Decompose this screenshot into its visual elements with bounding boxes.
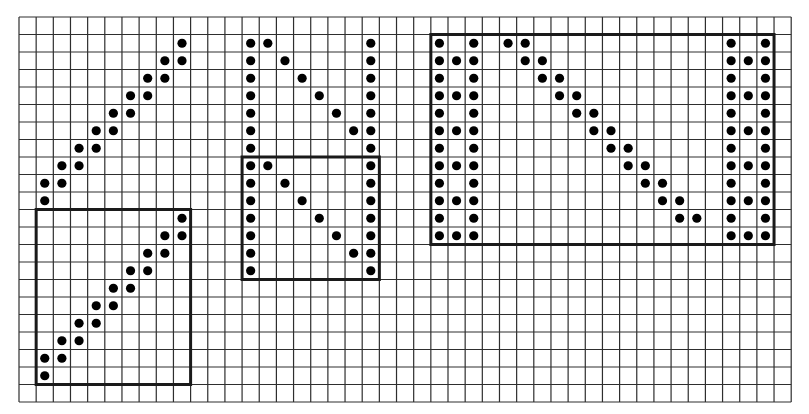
n-figure-boxed-dot (246, 214, 255, 223)
diagonal-figure-boxed-dot (160, 231, 169, 240)
wide-n-figure-boxed-dot (555, 91, 564, 100)
n-figure-top-dot (263, 39, 272, 48)
wide-n-figure-boxed-dot (469, 161, 478, 170)
wide-n-figure-boxed-dot (521, 39, 530, 48)
n-figure-top-dot (366, 74, 375, 83)
diagonal-figure-top-dot (57, 161, 66, 170)
diagonal-figure-top-dot (177, 39, 186, 48)
diagonal-figure-boxed-dot (177, 214, 186, 223)
wide-n-figure-boxed-dot (761, 179, 770, 188)
wide-n-figure-boxed-dot (761, 109, 770, 118)
n-figure-top-dot (366, 39, 375, 48)
diagonal-figure-top-dot (126, 109, 135, 118)
diagonal-figure-top-dot (57, 179, 66, 188)
wide-n-figure-boxed-dot (452, 126, 461, 135)
wide-n-figure-boxed-dot (469, 144, 478, 153)
diagonal-figure-boxed-dot (92, 319, 101, 328)
wide-n-figure-boxed-dot (727, 74, 736, 83)
n-figure-boxed-dot (366, 179, 375, 188)
wide-n-figure-boxed-dot (435, 126, 444, 135)
diagonal-figure-boxed-dot (126, 284, 135, 293)
wide-n-figure-boxed-dot (538, 56, 547, 65)
wide-n-figure-boxed-dot (435, 39, 444, 48)
wide-n-figure-boxed-dot (435, 196, 444, 205)
wide-n-figure-boxed-dot (641, 179, 650, 188)
n-figure-top-dot (246, 109, 255, 118)
wide-n-figure-boxed-dot (727, 144, 736, 153)
wide-n-figure-boxed-dot (727, 109, 736, 118)
diagonal-figure-top-dot (143, 91, 152, 100)
wide-n-figure-boxed-dot (452, 231, 461, 240)
wide-n-figure-boxed-dot (435, 74, 444, 83)
wide-n-figure-boxed-dot (435, 161, 444, 170)
n-figure-boxed-dot (246, 196, 255, 205)
diagonal-figure-top-dot (109, 126, 118, 135)
diagonal-figure-boxed-dot (40, 354, 49, 363)
wide-n-figure-boxed-dot (589, 109, 598, 118)
wide-n-figure-boxed-dot (761, 144, 770, 153)
diagonal-figure-top-dot (40, 179, 49, 188)
wide-n-figure-boxed-dot (761, 196, 770, 205)
n-figure-boxed-dot (246, 231, 255, 240)
n-figure-boxed-dot (366, 249, 375, 258)
wide-n-figure-boxed-dot (761, 56, 770, 65)
wide-n-figure-boxed-dot (606, 126, 615, 135)
wide-n-figure-boxed-dot (727, 39, 736, 48)
diagonal-figure-top-dot (74, 144, 83, 153)
n-figure-boxed-dot (366, 231, 375, 240)
wide-n-figure-boxed-dot (727, 196, 736, 205)
wide-n-figure-boxed-dot (521, 56, 530, 65)
wide-n-figure-boxed-dot (452, 56, 461, 65)
wide-n-figure-boxed-dot (675, 214, 684, 223)
wide-n-figure-boxed-dot (589, 126, 598, 135)
n-figure-boxed-dot (280, 179, 289, 188)
diagonal-figure-boxed-dot (126, 266, 135, 275)
wide-n-figure-boxed-dot (469, 126, 478, 135)
diagonal-figure-top-dot (143, 74, 152, 83)
diagonal-figure-boxed-dot (160, 249, 169, 258)
wide-n-figure-boxed-dot (435, 56, 444, 65)
n-figure-boxed-dot (246, 249, 255, 258)
diagonal-figure-boxed-dot (57, 354, 66, 363)
wide-n-figure-boxed-dot (538, 74, 547, 83)
wide-n-figure-boxed-dot (555, 74, 564, 83)
wide-n-figure-boxed-dot (675, 196, 684, 205)
wide-n-figure-boxed-dot (572, 109, 581, 118)
n-figure-top-dot (366, 91, 375, 100)
wide-n-figure-boxed-dot (469, 91, 478, 100)
wide-n-figure-boxed-dot (761, 74, 770, 83)
n-figure-top-dot (246, 91, 255, 100)
wide-n-figure-boxed-dot (727, 91, 736, 100)
wide-n-figure-boxed-dot (624, 161, 633, 170)
n-figure-top-dot (280, 56, 289, 65)
n-figure-top-dot (332, 109, 341, 118)
diagonal-figure-boxed-dot (143, 249, 152, 258)
wide-n-figure-boxed-dot (572, 91, 581, 100)
n-figure-top-dot (246, 126, 255, 135)
n-figure-top-dot (366, 126, 375, 135)
wide-n-figure-boxed-dot (761, 126, 770, 135)
n-figure-top-dot (246, 144, 255, 153)
diagonal-figure-boxed-dot (177, 231, 186, 240)
wide-n-figure-boxed-dot (435, 231, 444, 240)
wide-n-figure-boxed-dot (435, 214, 444, 223)
wide-n-figure-boxed-dot (761, 91, 770, 100)
n-figure-boxed-dot (366, 214, 375, 223)
wide-n-figure-boxed-dot (469, 214, 478, 223)
wide-n-figure-boxed-dot (624, 144, 633, 153)
n-figure-boxed-dot (332, 231, 341, 240)
dot-grid-diagram (0, 0, 809, 414)
wide-n-figure-boxed-dot (469, 179, 478, 188)
wide-n-figure-boxed-dot (469, 56, 478, 65)
diagonal-figure-boxed-dot (109, 301, 118, 310)
wide-n-figure-boxed-dot (435, 144, 444, 153)
n-figure-top-dot (366, 144, 375, 153)
wide-n-figure-boxed-dot (469, 74, 478, 83)
wide-n-figure-boxed-dot (452, 196, 461, 205)
n-figure-top-dot (366, 56, 375, 65)
n-figure-boxed-dot (366, 161, 375, 170)
diagonal-figure-boxed-dot (74, 319, 83, 328)
wide-n-figure-boxed-dot (727, 231, 736, 240)
n-figure-boxed-dot (349, 249, 358, 258)
diagonal-figure-boxed-dot (143, 266, 152, 275)
